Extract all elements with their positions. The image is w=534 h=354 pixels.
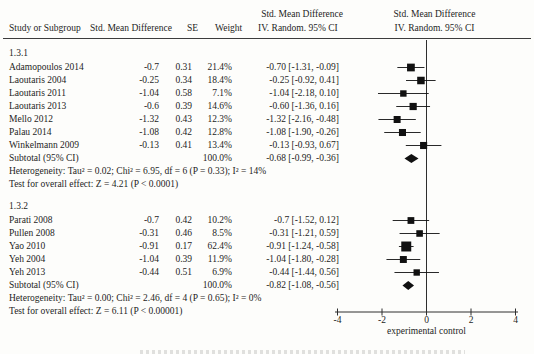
axis-tick-label: -2: [367, 315, 397, 325]
overall-effect-row-full: Test for overall effect: Z = 6.11 (P < 0…: [9, 305, 183, 318]
axis-label: experimental control: [346, 326, 507, 336]
study-row: Laoutaris 2013-0.60.3914.6%-0.60 [-1.36,…: [0, 100, 346, 113]
axis-tick-label: 2: [456, 315, 486, 325]
study-row-weight: 6.9%: [194, 266, 232, 279]
study-row-weight: 13.4%: [194, 139, 232, 152]
header-rule: [3, 38, 531, 39]
subtotal-diamond: [404, 154, 418, 163]
study-row-se: 0.31: [161, 61, 192, 74]
study-row: Yeh 2013-0.440.516.9%-0.44 [-1.44, 0.56]: [0, 266, 346, 279]
study-row-weight: 8.5%: [194, 227, 232, 240]
study-row-ci: -0.31 [-1.21, 0.59]: [232, 227, 339, 240]
study-marker: [416, 230, 423, 237]
study-row-study: Yao 2010: [9, 240, 45, 253]
subtotal-row: Subtotal (95% CI)100.0%-0.68 [-0.99, -0.…: [0, 152, 346, 165]
subtotal-row-study: Subtotal (95% CI): [9, 279, 79, 292]
study-marker: [394, 116, 401, 123]
study-row-se: 0.39: [161, 100, 192, 113]
study-row-study: Pullen 2008: [9, 227, 55, 240]
subtotal-row-weight: 100.0%: [194, 279, 232, 292]
study-row: Pullen 2008-0.310.468.5%-0.31 [-1.21, 0.…: [0, 227, 346, 240]
study-row-weight: 10.2%: [194, 214, 232, 227]
study-row: Mello 2012-1.320.4312.3%-1.32 [-2.16, -0…: [0, 113, 346, 126]
subgroup-label-row: 1.3.2: [0, 199, 346, 214]
study-row-smd: -0.7: [104, 61, 159, 74]
study-row-study: Yeh 2004: [9, 253, 45, 266]
study-row-ci: -0.60 [-1.36, 0.16]: [232, 100, 339, 113]
study-row: Palau 2014-1.080.4212.8%-1.08 [-1.90, -0…: [0, 126, 346, 139]
heterogeneity-row: Heterogeneity: Tau² = 0.02; Chi² = 6.95,…: [0, 165, 346, 178]
study-row-weight: 11.9%: [194, 253, 232, 266]
study-row-study: Winkelmann 2009: [9, 139, 79, 152]
study-row: Parati 2008-0.70.4210.2%-0.7 [-1.52, 0.1…: [0, 214, 346, 227]
plot-header-effect-measure: Std. Mean Difference: [367, 9, 502, 19]
study-row-smd: -0.31: [104, 227, 159, 240]
study-marker: [407, 64, 415, 72]
study-row: Yao 2010-0.910.1762.4%-0.91 [-1.24, -0.5…: [0, 240, 346, 253]
study-row-se: 0.46: [161, 227, 192, 240]
study-row-weight: 12.3%: [194, 113, 232, 126]
study-row-smd: -0.6: [104, 100, 159, 113]
study-marker: [417, 77, 425, 85]
study-marker: [408, 217, 415, 224]
heterogeneity-row-full: Heterogeneity: Tau² = 0.00; Chi² = 2.46,…: [9, 292, 261, 305]
axis-tick-label: -4: [323, 315, 353, 325]
study-row-smd: -1.32: [104, 113, 159, 126]
study-row: Adamopoulos 2014-0.70.3121.4%-0.70 [-1.3…: [0, 61, 346, 74]
study-row-smd: -0.91: [104, 240, 159, 253]
study-row-study: Mello 2012: [9, 113, 53, 126]
axis-tick-label: 4: [501, 315, 531, 325]
study-row-weight: 7.1%: [194, 87, 232, 100]
study-row-smd: -1.08: [104, 126, 159, 139]
column-header-weight: Weight: [215, 23, 242, 33]
heterogeneity-row: Heterogeneity: Tau² = 0.00; Chi² = 2.46,…: [0, 292, 346, 305]
study-marker: [420, 142, 427, 149]
cropped-caption-remnant: [140, 350, 465, 354]
study-marker: [401, 242, 411, 252]
study-row-ci: -0.44 [-1.44, 0.56]: [232, 266, 339, 279]
overall-effect-row: Test for overall effect: Z = 4.21 (P < 0…: [0, 178, 346, 191]
study-marker: [399, 129, 406, 136]
subtotal-diamond: [402, 281, 414, 290]
study-row-weight: 12.8%: [194, 126, 232, 139]
study-row-se: 0.43: [161, 113, 192, 126]
forest-plot-figure: Std. Mean Difference Std. Mean Differenc…: [0, 0, 534, 354]
study-row-ci: -0.91 [-1.24, -0.58]: [232, 240, 339, 253]
subtotal-row: Subtotal (95% CI)100.0%-0.82 [-1.08, -0.…: [0, 279, 346, 292]
overall-effect-row: Test for overall effect: Z = 6.11 (P < 0…: [0, 305, 346, 318]
study-marker: [410, 103, 417, 110]
study-row-se: 0.39: [161, 253, 192, 266]
study-row-smd: -1.04: [104, 87, 159, 100]
column-header-ci: IV. Random. 95% CI: [258, 23, 338, 33]
study-row: Laoutaris 2004-0.250.3418.4%-0.25 [-0.92…: [0, 74, 346, 87]
study-marker: [400, 256, 407, 263]
study-row-smd: -0.44: [104, 266, 159, 279]
study-row-study: Parati 2008: [9, 214, 53, 227]
study-row-study: Palau 2014: [9, 126, 51, 139]
overall-effect-row-full: Test for overall effect: Z = 4.21 (P < 0…: [9, 178, 178, 191]
study-row-ci: -1.04 [-2.18, 0.10]: [232, 87, 339, 100]
study-row-ci: -0.7 [-1.52, 0.12]: [232, 214, 339, 227]
study-marker: [400, 90, 406, 96]
column-header-study: Study or Subgroup: [9, 23, 81, 33]
study-row-study: Laoutaris 2011: [9, 87, 66, 100]
column-header-se: SE: [187, 23, 198, 33]
subgroup-label-row: 1.3.1: [0, 46, 346, 61]
plot-header-method: IV. Random. 95% CI: [367, 23, 502, 33]
study-row-ci: -0.25 [-0.92, 0.41]: [232, 74, 339, 87]
subgroup-label-row-study: 1.3.2: [9, 199, 28, 214]
subtotal-row-weight: 100.0%: [194, 152, 232, 165]
study-row: Winkelmann 2009-0.130.4113.4%-0.13 [-0.9…: [0, 139, 346, 152]
study-row-ci: -1.08 [-1.90, -0.26]: [232, 126, 339, 139]
study-row-smd: -0.13: [104, 139, 159, 152]
study-row-smd: -0.25: [104, 74, 159, 87]
study-row-se: 0.58: [161, 87, 192, 100]
study-row-weight: 21.4%: [194, 61, 232, 74]
study-row-weight: 62.4%: [194, 240, 232, 253]
study-row: Laoutaris 2011-1.040.587.1%-1.04 [-2.18,…: [0, 87, 346, 100]
study-row-se: 0.17: [161, 240, 192, 253]
column-header-effect-measure: Std. Mean Difference: [180, 9, 343, 19]
subgroup-label-row-study: 1.3.1: [9, 46, 28, 61]
study-row-ci: -0.13 [-0.93, 0.67]: [232, 139, 339, 152]
study-row-study: Adamopoulos 2014: [9, 61, 84, 74]
